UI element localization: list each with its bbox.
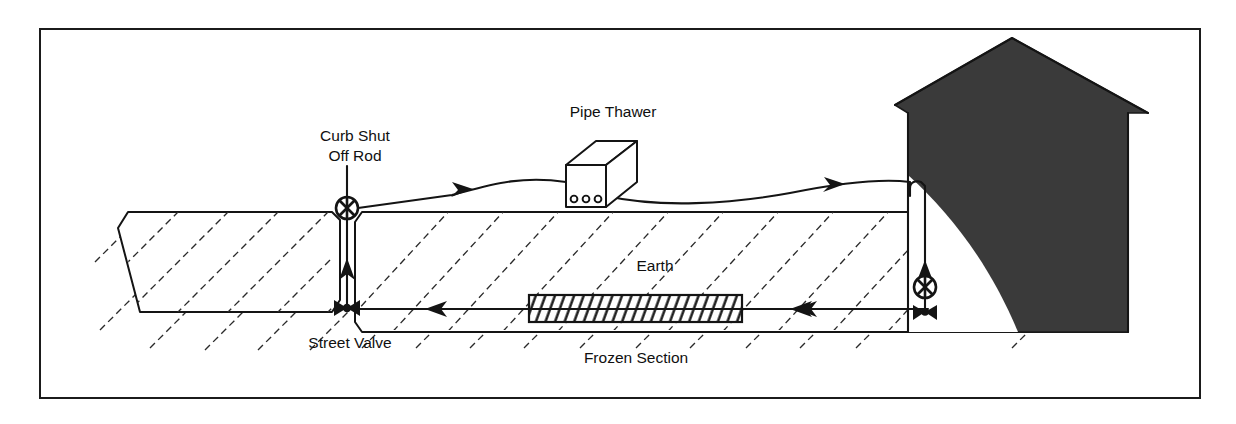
label-curb-shut-off-rod-line1: Curb Shut <box>320 127 390 144</box>
curb-riser-pipe <box>339 166 355 310</box>
flow-arrow-right-1 <box>451 182 473 197</box>
label-frozen-section: Frozen Section <box>584 349 688 366</box>
diagram-canvas: Curb Shut Off Rod Pipe Thawer Earth Stre… <box>0 0 1236 424</box>
label-street-valve: Street Valve <box>308 334 391 351</box>
house-shut-off-valve <box>914 276 936 298</box>
label-curb-shut-off-rod-line2: Off Rod <box>328 147 381 164</box>
flow-arrow-right-2 <box>823 177 845 192</box>
curb-shut-off-valve <box>336 197 358 219</box>
thawer-terminal-ports <box>571 196 602 203</box>
pipe-thawer-machine <box>566 141 637 207</box>
label-pipe-thawer: Pipe Thawer <box>570 103 657 120</box>
pipe-thawing-diagram: Curb Shut Off Rod Pipe Thawer Earth Stre… <box>0 0 1236 424</box>
label-earth: Earth <box>636 257 673 274</box>
